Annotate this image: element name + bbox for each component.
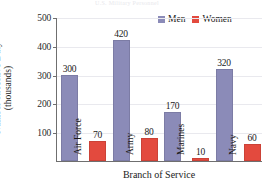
bar-value-label: 320 bbox=[217, 58, 231, 68]
bar-navy-women[interactable] bbox=[244, 144, 261, 161]
x-axis-category-label: Army bbox=[125, 133, 135, 155]
y-axis-tick-label: 100 bbox=[37, 128, 51, 138]
y-axis-tick bbox=[53, 18, 57, 19]
bar-group: 30070Air Force bbox=[61, 18, 113, 161]
bar-group: 17010Marines bbox=[164, 18, 216, 161]
y-axis-tick-label: 300 bbox=[37, 71, 51, 81]
plot-area: 50040030020010030070Air Force42080Army17… bbox=[56, 18, 262, 162]
y-axis-tick-label: 200 bbox=[37, 99, 51, 109]
y-axis-tick-label: 500 bbox=[37, 13, 51, 23]
bar-value-label: 10 bbox=[196, 147, 205, 157]
y-axis-tick bbox=[53, 104, 57, 105]
y-axis-tick-label: 400 bbox=[37, 42, 51, 52]
bar-value-label: 70 bbox=[93, 130, 102, 140]
bar-chart: U.S. Military Personnel Number on Active… bbox=[0, 0, 274, 184]
y-axis-tick bbox=[53, 133, 57, 134]
y-axis-title-line1: Number on Active Duty bbox=[0, 42, 2, 134]
x-axis-category-label: Air Force bbox=[73, 118, 83, 155]
y-axis-title: Number on Active Duty (thousands) bbox=[0, 13, 13, 163]
bar-value-label: 80 bbox=[144, 127, 153, 137]
y-axis-tick bbox=[53, 47, 57, 48]
bar-group: 32060Navy bbox=[216, 18, 268, 161]
x-axis-category-label: Navy bbox=[228, 134, 238, 155]
bar-group: 42080Army bbox=[113, 18, 165, 161]
bar-marines-women[interactable] bbox=[192, 158, 209, 161]
bar-army-women[interactable] bbox=[141, 138, 158, 161]
clipped-chart-title: U.S. Military Personnel bbox=[95, 0, 245, 7]
x-axis-category-label: Marines bbox=[176, 124, 186, 155]
y-axis-tick bbox=[53, 76, 57, 77]
bar-value-label: 420 bbox=[114, 29, 128, 39]
bar-value-label: 300 bbox=[63, 64, 77, 74]
y-axis-title-line2: (thousands) bbox=[2, 13, 13, 163]
bar-value-label: 60 bbox=[247, 133, 256, 143]
bar-air-force-women[interactable] bbox=[89, 141, 106, 161]
bar-value-label: 170 bbox=[166, 101, 180, 111]
x-axis-title: Branch of Service bbox=[56, 169, 262, 180]
